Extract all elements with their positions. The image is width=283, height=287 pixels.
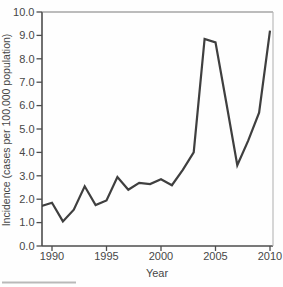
figure: 0.01.02.03.04.05.06.07.08.09.010.0199019… — [0, 0, 283, 287]
y-axis-title: Incidence (cases per 100,000 population) — [0, 34, 12, 227]
y-tick-label: 6.0 — [19, 99, 34, 111]
chart-generated-content: 0.01.02.03.04.05.06.07.08.09.010.0199019… — [13, 6, 282, 262]
plot-box — [42, 12, 273, 246]
x-tick-label: 1995 — [94, 250, 118, 262]
y-tick-label: 0.0 — [19, 240, 34, 252]
y-tick-label: 2.0 — [19, 193, 34, 205]
incidence-line-chart: 0.01.02.03.04.05.06.07.08.09.010.0199019… — [0, 0, 283, 287]
y-tick-label: 5.0 — [19, 123, 34, 135]
x-tick-label: 2005 — [203, 250, 227, 262]
y-tick-label: 3.0 — [19, 170, 34, 182]
x-tick-label: 2010 — [258, 250, 282, 262]
y-tick-label: 7.0 — [19, 76, 34, 88]
x-tick-label: 2000 — [149, 250, 173, 262]
incidence-data-line — [41, 31, 270, 222]
y-tick-label: 1.0 — [19, 216, 34, 228]
x-axis-title: Year — [146, 267, 169, 279]
y-tick-label: 10.0 — [13, 6, 34, 18]
x-tick-label: 1990 — [40, 250, 64, 262]
y-tick-label: 4.0 — [19, 146, 34, 158]
y-tick-label: 9.0 — [19, 29, 34, 41]
y-tick-label: 8.0 — [19, 53, 34, 65]
